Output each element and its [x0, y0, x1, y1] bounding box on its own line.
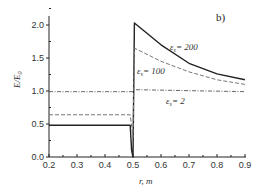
svg-text:0.5: 0.5	[31, 119, 44, 129]
svg-text:0.7: 0.7	[183, 160, 196, 170]
svg-text:0.5: 0.5	[127, 160, 140, 170]
svg-text:1.5: 1.5	[31, 53, 44, 63]
svg-text:0.0: 0.0	[31, 152, 44, 162]
annotation-eps-100: εs= 100	[137, 66, 165, 77]
svg-text:0.8: 0.8	[211, 160, 224, 170]
svg-text:0.9: 0.9	[239, 160, 252, 170]
series-dashed	[49, 48, 245, 137]
x-ticks: 0.20.30.40.50.60.70.80.9	[43, 154, 252, 170]
x-axis-label: r, m	[139, 176, 153, 186]
svg-text:0.3: 0.3	[71, 160, 84, 170]
svg-text:0.6: 0.6	[155, 160, 168, 170]
svg-text:0.2: 0.2	[43, 160, 56, 170]
series-dash-dot	[49, 90, 245, 92]
svg-text:2.0: 2.0	[31, 20, 44, 30]
svg-text:0.4: 0.4	[99, 160, 112, 170]
y-ticks: 0.00.51.01.52.0	[31, 9, 51, 163]
svg-text:1.0: 1.0	[31, 86, 44, 96]
series-lines	[49, 23, 245, 157]
annotation-eps-200: εs= 200	[170, 42, 198, 53]
annotation-eps-2: εs= 2	[166, 96, 185, 107]
chart: 0.20.30.40.50.60.70.80.9 0.00.51.01.52.0…	[0, 0, 260, 194]
y-axis-label: E/E0	[12, 72, 23, 90]
panel-label: b)	[216, 11, 226, 24]
